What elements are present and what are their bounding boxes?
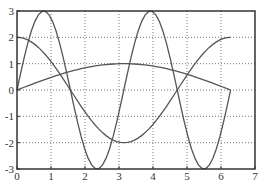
y-tick-label: 0 <box>9 84 15 96</box>
x-tick-label: 2 <box>82 170 88 182</box>
curve-3 <box>17 64 231 90</box>
y-tick-label: 2 <box>9 31 15 43</box>
x-tick-label: 0 <box>14 170 20 182</box>
y-tick-label: 1 <box>9 58 15 70</box>
y-tick-label: 3 <box>9 5 15 17</box>
grid-lines <box>17 11 255 169</box>
x-tick-label: 1 <box>48 170 54 182</box>
x-tick-label: 6 <box>218 170 224 182</box>
x-tick-label: 3 <box>116 170 122 182</box>
line-chart: 01234567 -3-2-10123 <box>0 0 261 182</box>
y-tick-label: -2 <box>5 137 14 149</box>
data-curves <box>17 11 231 168</box>
y-tick-label: -3 <box>5 163 15 175</box>
x-tick-label: 4 <box>150 170 156 182</box>
x-tick-label: 5 <box>184 170 190 182</box>
plot-frame <box>17 11 255 169</box>
y-tick-label: -1 <box>5 110 14 122</box>
x-tick-label: 7 <box>252 170 258 182</box>
curve-1 <box>17 11 231 168</box>
